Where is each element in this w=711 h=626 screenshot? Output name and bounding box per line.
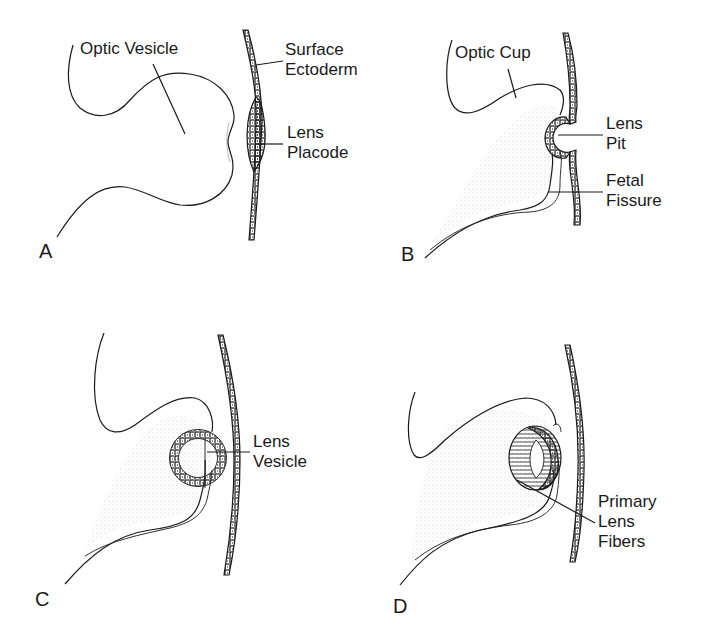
panel-d [400, 345, 595, 585]
label-text: Lens [253, 432, 307, 452]
label-lens-pit: Lens Pit [606, 114, 643, 154]
label-text: Pit [606, 134, 643, 154]
label-text: Fetal [606, 171, 662, 191]
label-text: Lens [606, 114, 643, 134]
panel-a [57, 30, 283, 240]
label-text: Vesicle [253, 452, 307, 472]
label-text: Ectoderm [285, 60, 358, 80]
label-lens-vesicle: Lens Vesicle [253, 432, 307, 472]
panel-letter-c: C [35, 588, 49, 611]
label-text: Fibers [598, 532, 657, 552]
label-text: Fissure [606, 191, 662, 211]
panel-letter-d: D [393, 595, 407, 618]
panel-b [425, 33, 603, 258]
surface-ectoderm-d [565, 345, 584, 562]
optic-vesicle-outline [57, 45, 234, 237]
panel-letter-b: B [401, 243, 414, 266]
optic-cup-shading [430, 105, 560, 245]
lens-placode [247, 97, 265, 172]
optic-cup-outline-c [94, 333, 212, 432]
label-text: Surface [285, 40, 358, 60]
panel-letter-a: A [39, 240, 52, 263]
label-text: Optic Vesicle [80, 39, 178, 58]
label-text: Primary [598, 492, 657, 512]
panel-c [65, 333, 250, 584]
label-fetal-fissure: Fetal Fissure [606, 171, 662, 211]
label-optic-cup: Optic Cup [455, 43, 531, 63]
leader-optic-cup [508, 69, 516, 98]
label-text: Placode [287, 143, 348, 163]
label-primary-lens-fibers: Primary Lens Fibers [598, 492, 657, 552]
label-text: Lens [287, 123, 348, 143]
leader-surface-ectoderm [256, 61, 283, 65]
surface-ectoderm-b [563, 33, 577, 124]
label-text: Optic Cup [455, 43, 531, 62]
label-text: Lens [598, 512, 657, 532]
label-surface-ectoderm: Surface Ectoderm [285, 40, 358, 80]
label-lens-placode: Lens Placode [287, 123, 348, 163]
label-optic-vesicle: Optic Vesicle [80, 39, 178, 59]
